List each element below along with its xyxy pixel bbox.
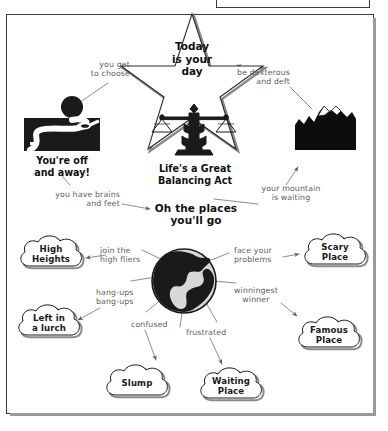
cloud-label-slump: Slump: [104, 379, 170, 389]
connector-label-face-your-problems: face your problems: [234, 246, 294, 264]
connector-label-you-have-brains-and-feet: you have brains and feet: [52, 190, 120, 208]
connector-label-be-dexterous-and-deft: be dexterous and deft: [225, 68, 290, 86]
connector-label-join-the-high-fliers: join the high fliers: [100, 246, 160, 264]
center-title: Oh the places you'll go: [146, 202, 246, 227]
connector-label-you-get-to-choose: you get to choose: [58, 60, 130, 78]
connector-label-winningest-winner: winningest winner: [226, 286, 286, 304]
connector-label-hang-ups-bang-ups: hang-ups bang-ups: [96, 288, 156, 306]
cloud-label-waiting-place: Waiting Place: [198, 377, 264, 397]
cloud-label-left-in-a-lurch: Left in a lurch: [16, 314, 82, 334]
connector-label-frustrated: frustrated: [186, 328, 242, 337]
cloud-label-scary-place: Scary Place: [302, 243, 368, 263]
connector-label-confused: confused: [131, 320, 183, 329]
connector-label-your-mountain-is-waiting: your mountain is waiting: [258, 184, 324, 202]
cloud-label-famous-place: Famous Place: [296, 326, 362, 346]
diagram-canvas: Start climbing the mountain.: [0, 0, 388, 431]
cloud-label-high-heights: High Heights: [18, 245, 84, 265]
